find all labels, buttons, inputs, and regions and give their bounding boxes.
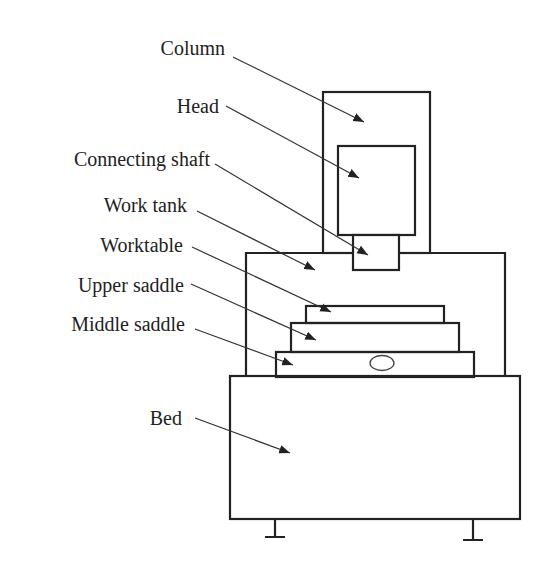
- bed-foot-left: [265, 519, 285, 537]
- leader-worktable: [192, 247, 331, 312]
- label-head: Head: [177, 95, 219, 117]
- middle-saddle-shape: [276, 352, 474, 377]
- label-worktable: Worktable: [100, 234, 183, 256]
- head-shape: [338, 146, 415, 235]
- diagram-svg: Column Head Connecting shaft Work tank W…: [0, 0, 546, 566]
- upper-saddle-shape: [291, 323, 459, 352]
- label-upper-saddle: Upper saddle: [78, 274, 184, 297]
- label-column: Column: [161, 37, 225, 59]
- leader-upper-saddle: [191, 284, 316, 340]
- middle-saddle-hole: [370, 356, 394, 371]
- label-work-tank: Work tank: [104, 194, 187, 216]
- leader-connecting-shaft: [215, 164, 368, 255]
- leader-column: [233, 57, 364, 122]
- machine-diagram: Column Head Connecting shaft Work tank W…: [0, 0, 546, 566]
- label-bed: Bed: [150, 407, 182, 429]
- leader-head: [226, 106, 359, 178]
- work-tank-shape: [246, 253, 505, 377]
- label-middle-saddle: Middle saddle: [71, 313, 185, 335]
- leader-bed: [195, 418, 290, 453]
- connecting-shaft-shape: [353, 235, 399, 270]
- leader-work-tank: [197, 211, 315, 270]
- bed-foot-right: [463, 519, 483, 540]
- label-connecting-shaft: Connecting shaft: [74, 148, 211, 171]
- leader-middle-saddle: [195, 329, 293, 365]
- worktable-shape: [306, 306, 444, 323]
